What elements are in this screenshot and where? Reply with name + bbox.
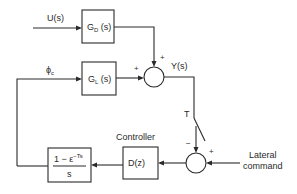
arrow-head-icon bbox=[91, 163, 97, 168]
arrow-head-icon bbox=[206, 161, 212, 166]
error-sum-top-sign: − bbox=[186, 139, 191, 148]
commanded-bank-label: ϕc bbox=[46, 65, 54, 76]
zoh-denominator: s bbox=[67, 169, 72, 179]
output-summing-junction bbox=[144, 67, 164, 87]
plant-tf-label: GL (s) bbox=[88, 74, 111, 85]
arrow-head-icon bbox=[138, 76, 144, 81]
arrow-head-icon bbox=[158, 161, 164, 166]
output-line bbox=[164, 77, 194, 118]
arrow-head-icon bbox=[152, 61, 157, 67]
arrow-head-icon bbox=[194, 147, 199, 153]
error-sum-right-sign: + bbox=[209, 147, 214, 156]
error-summing-junction bbox=[186, 153, 206, 173]
controller-tf-label: D(z) bbox=[128, 158, 145, 168]
output-label: Y(s) bbox=[171, 61, 188, 71]
output-sum-top-sign: + bbox=[160, 53, 165, 62]
disturbance-input-label: U(s) bbox=[47, 13, 64, 23]
controller-label: Controller bbox=[116, 132, 155, 142]
output-sum-left-sign: + bbox=[134, 64, 139, 73]
block-diagram: U(s) GD (s) + ϕc GL (s) + Y(s) T − + Lat… bbox=[0, 0, 297, 194]
arrow-head-icon bbox=[76, 26, 82, 31]
disturbance-tf-label: GD (s) bbox=[87, 22, 111, 33]
reference-label-line1: Lateral bbox=[249, 150, 277, 160]
disturbance-output-line bbox=[114, 27, 154, 64]
arrow-head-icon bbox=[76, 77, 82, 82]
reference-label-line2: command bbox=[243, 161, 283, 171]
sample-period-label: T bbox=[184, 109, 190, 119]
